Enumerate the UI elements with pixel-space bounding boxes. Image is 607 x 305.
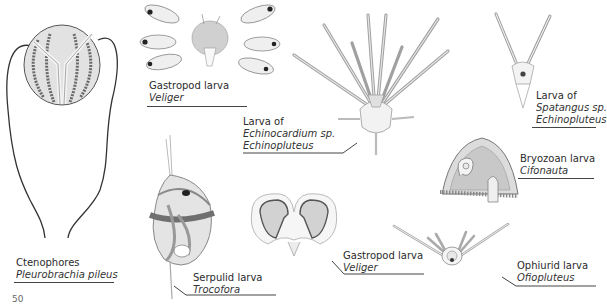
common-name: Ctenophores	[16, 257, 118, 269]
scientific-name: Pleurobrachia pileus	[16, 269, 118, 281]
common-name: Gastropod larva	[149, 80, 229, 92]
caption-rule	[518, 178, 594, 179]
spatangus-label: Larva of Spatangus sp. Echinopluteus	[536, 90, 607, 126]
scientific-name: Spatangus sp.	[536, 102, 607, 114]
veliger-top-label: Gastropod larva Veliger	[149, 80, 229, 104]
veliger-top-illustration	[140, 0, 290, 72]
caption-rule	[14, 282, 114, 283]
scientific-name: Cifonauta	[520, 165, 595, 177]
ctenophore-label: Ctenophores Pleurobrachia pileus	[16, 257, 118, 281]
common-name: Bryozoan larva	[520, 153, 595, 165]
scientific-name: Echinocardium sp.	[243, 128, 335, 140]
leader-line	[172, 284, 278, 298]
scientific-name-secondary: Echinopluteus	[536, 114, 607, 126]
leader-line	[500, 275, 600, 289]
common-name: Ophiurid larva	[517, 260, 588, 272]
page-number: 50	[12, 294, 23, 304]
common-name: Serpulid larva	[193, 272, 262, 284]
caption-rule	[532, 127, 596, 128]
veliger-bottom-illustration	[246, 192, 342, 266]
common-name: Larva of	[243, 116, 335, 128]
bryozoan-illustration	[438, 136, 520, 212]
common-name: Larva of	[536, 90, 607, 102]
ctenophore-illustration	[0, 0, 150, 250]
scientific-name: Veliger	[149, 92, 229, 104]
caption-rule	[147, 106, 247, 107]
leader-line	[240, 140, 360, 156]
ophiurid-illustration	[392, 222, 512, 267]
bryozoan-label: Bryozoan larva Cifonauta	[520, 153, 595, 177]
